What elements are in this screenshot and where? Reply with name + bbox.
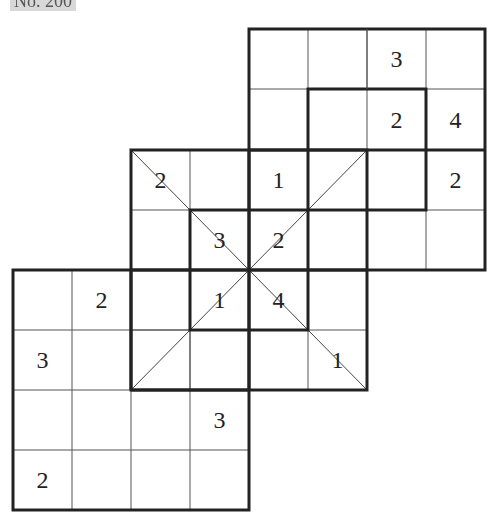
given-digit: 2 [37, 467, 49, 493]
given-digit: 2 [96, 287, 108, 313]
given-digit: 4 [450, 107, 462, 133]
given-digit: 2 [391, 107, 403, 133]
given-digit: 3 [391, 46, 403, 72]
puzzle-board: 324212322143132 [0, 0, 496, 530]
given-digit: 4 [273, 287, 285, 313]
given-digit: 1 [332, 347, 344, 373]
given-digit: 2 [155, 167, 167, 193]
given-digit: 3 [37, 347, 49, 373]
given-digit: 1 [214, 287, 226, 313]
given-digit: 2 [450, 167, 462, 193]
given-digit: 3 [214, 407, 226, 433]
given-digit: 1 [273, 167, 285, 193]
given-digit: 2 [273, 227, 285, 253]
given-digit: 3 [214, 227, 226, 253]
